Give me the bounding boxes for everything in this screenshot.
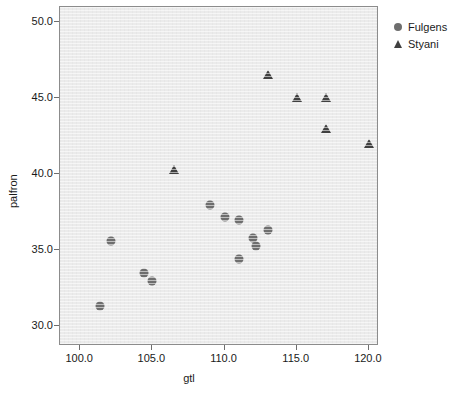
- x-axis-tick: [79, 345, 80, 350]
- data-point-styani: [169, 165, 179, 174]
- x-axis-tick: [368, 345, 369, 350]
- y-axis-tick-label: 40.0: [32, 167, 53, 179]
- data-point-styani: [321, 93, 331, 102]
- y-axis-tick: [54, 173, 59, 174]
- data-point-fulgens: [263, 226, 272, 235]
- data-point-fulgens: [252, 241, 261, 250]
- data-point-fulgens: [206, 200, 215, 209]
- legend: FulgensStyani: [392, 19, 452, 53]
- y-axis-tick-label: 50.0: [32, 15, 53, 27]
- data-point-fulgens: [139, 269, 148, 278]
- circle-marker-icon: [392, 21, 404, 33]
- data-point-styani: [292, 93, 302, 102]
- x-axis-title: gtl: [0, 372, 453, 384]
- x-axis-tick: [224, 345, 225, 350]
- legend-item-styani[interactable]: Styani: [392, 36, 452, 51]
- y-axis-tick-label: 35.0: [32, 243, 53, 255]
- x-axis-tick-label: 110.0: [210, 352, 237, 364]
- data-point-styani: [263, 70, 273, 79]
- y-axis-tick-label: 45.0: [32, 91, 53, 103]
- data-point-styani: [364, 139, 374, 148]
- data-point-fulgens: [234, 215, 243, 224]
- data-point-fulgens: [148, 276, 157, 285]
- x-axis-tick: [296, 345, 297, 350]
- y-axis-tick: [54, 325, 59, 326]
- scatter-plot-figure: 100.0105.0110.0115.0120.030.035.040.045.…: [0, 0, 453, 393]
- data-point-fulgens: [106, 237, 115, 246]
- legend-item-label: Styani: [408, 38, 439, 50]
- y-axis-tick: [54, 21, 59, 22]
- x-axis-tick-label: 120.0: [354, 352, 382, 364]
- plot-panel: [59, 6, 378, 345]
- data-point-styani: [321, 124, 331, 133]
- triangle-marker-icon: [392, 38, 404, 50]
- x-axis-tick-label: 100.0: [65, 352, 93, 364]
- y-axis-tick-label: 30.0: [32, 319, 53, 331]
- data-point-fulgens: [220, 212, 229, 221]
- y-axis-title: palfron: [7, 186, 19, 208]
- y-axis-tick: [54, 249, 59, 250]
- data-point-fulgens: [96, 302, 105, 311]
- plot-data-area: [60, 7, 377, 344]
- x-axis-tick-label: 105.0: [138, 352, 166, 364]
- y-axis-tick: [54, 97, 59, 98]
- x-axis-tick: [151, 345, 152, 350]
- legend-item-fulgens[interactable]: Fulgens: [392, 19, 452, 34]
- legend-item-label: Fulgens: [408, 21, 447, 33]
- data-point-fulgens: [234, 255, 243, 264]
- x-axis-tick-label: 115.0: [282, 352, 309, 364]
